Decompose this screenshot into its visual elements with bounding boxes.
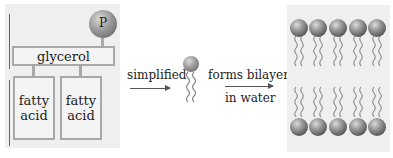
head-region-bracket: [9, 14, 10, 69]
simplified-head-icon: [183, 56, 199, 72]
tail-region-bracket: [9, 80, 10, 146]
tail-connector-2: [79, 66, 82, 76]
simplified-arrow-icon: [130, 88, 170, 89]
phospholipid-detail-panel: P glycerol fatty acid fatty acid: [5, 4, 120, 148]
fatty-acid-box-2: fatty acid: [60, 76, 102, 140]
fatty-acid-label-1a: fatty: [19, 93, 49, 108]
head-connector: [101, 38, 104, 46]
glycerol-box: glycerol: [12, 46, 115, 66]
in-water-label: in water: [225, 91, 275, 105]
fatty-acid-label-2b: acid: [67, 108, 95, 123]
bilayer-icon: [287, 5, 390, 152]
simplified-tails-icon: [183, 72, 199, 106]
fatty-acid-label-1b: acid: [20, 108, 48, 123]
fatty-acid-label-2a: fatty: [66, 93, 96, 108]
fatty-acid-box-1: fatty acid: [13, 76, 55, 140]
glycerol-label: glycerol: [37, 49, 90, 64]
bilayer-panel: [287, 5, 390, 152]
forms-bilayers-arrow-icon: [225, 86, 273, 87]
forms-bilayers-label: forms bilayers: [208, 68, 295, 82]
phosphate-label: P: [99, 16, 107, 30]
simplified-label: simplified: [127, 68, 187, 82]
tail-connector-1: [32, 66, 35, 76]
